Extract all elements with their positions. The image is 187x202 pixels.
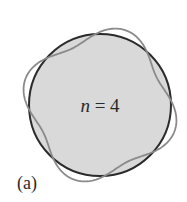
mode-number-label: n = 4 xyxy=(80,95,120,116)
standing-wave-diagram: n = 4 (a) xyxy=(0,0,187,202)
panel-label: (a) xyxy=(17,173,37,194)
